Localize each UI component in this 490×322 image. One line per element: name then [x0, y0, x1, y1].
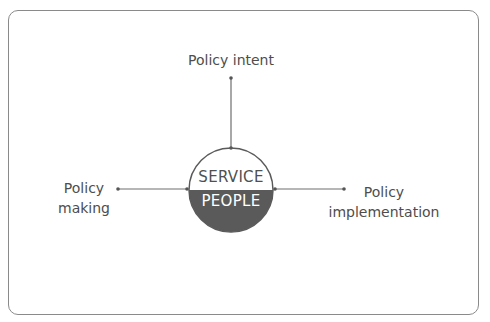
node-policy-implementation: Policy implementation [322, 182, 446, 222]
diagram-connectors [0, 0, 490, 322]
node-policy-implementation-line2: implementation [322, 202, 446, 222]
node-policy-implementation-line1: Policy [322, 182, 446, 202]
connector-dot [229, 76, 233, 80]
node-policy-making-line2: making [44, 198, 124, 218]
node-policy-making: Policy making [44, 178, 124, 218]
node-policy-making-line1: Policy [44, 178, 124, 198]
center-label-service: SERVICE [189, 168, 273, 186]
center-label-people: PEOPLE [189, 192, 273, 210]
node-policy-intent: Policy intent [170, 50, 292, 70]
